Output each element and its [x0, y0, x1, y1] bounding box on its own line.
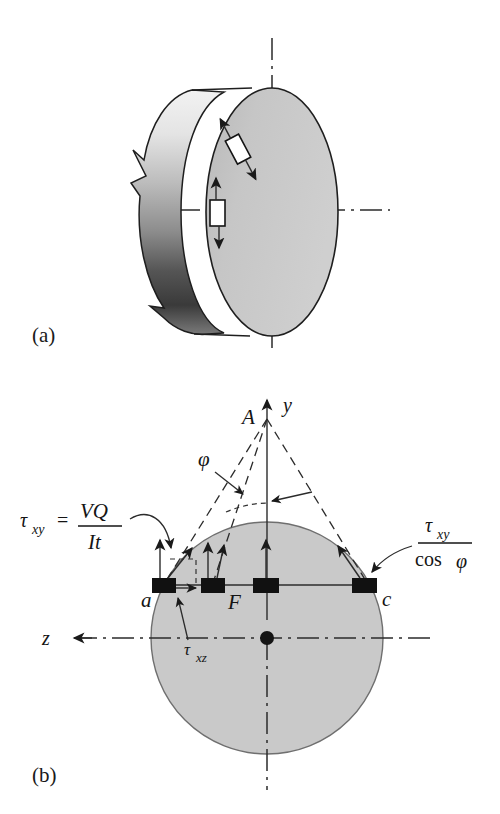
formula-right-phi: φ	[456, 550, 467, 573]
formula-left-numerator: VQ	[80, 499, 108, 523]
tau-xz-subscript: xz	[195, 650, 207, 665]
formula-left-denominator: It	[87, 530, 102, 554]
formula-left-tau-subscript: xy	[31, 522, 45, 537]
phi-angle-label: φ	[198, 447, 210, 471]
stress-element-a-box	[152, 578, 176, 593]
panel-b-label: (b)	[32, 763, 57, 787]
panel-a-label: (a)	[32, 323, 55, 347]
formula-left-tau-symbol: τ	[20, 509, 28, 531]
z-axis-label: z	[41, 627, 50, 649]
centroid-dot	[260, 631, 274, 645]
stress-element-box-lower	[210, 200, 225, 226]
formula-right-tau-symbol: τ	[425, 514, 433, 536]
stress-element-c-box	[352, 578, 377, 593]
technical-figure: (a) z y A φ	[0, 0, 500, 814]
formula-right-cos: cos	[415, 548, 442, 570]
tau-xz-symbol: τ	[184, 640, 191, 659]
shaft-front-face	[206, 88, 338, 336]
point-a-label: a	[141, 588, 152, 612]
stress-element-2-box	[201, 578, 225, 593]
y-axis-label: y	[281, 394, 292, 417]
stress-element-3-box	[253, 578, 279, 593]
formula-right-tau-subscript: xy	[436, 527, 450, 542]
figure-root: (a) z y A φ	[0, 0, 500, 814]
point-F-label: F	[227, 590, 241, 614]
point-A-label: A	[240, 405, 255, 429]
point-c-label: c	[382, 587, 392, 611]
formula-left-equals: =	[57, 509, 68, 531]
